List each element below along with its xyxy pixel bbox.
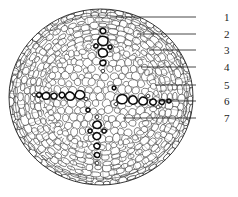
label-number-3: 3 xyxy=(224,45,230,56)
label-number-5: 5 xyxy=(224,80,230,91)
label-number-1: 1 xyxy=(224,12,230,23)
cross-section-drawing xyxy=(0,0,238,197)
label-number-6: 6 xyxy=(224,96,230,107)
figure-canvas: 1234567 xyxy=(0,0,238,197)
label-number-4: 4 xyxy=(224,62,230,73)
label-number-7: 7 xyxy=(224,113,230,124)
label-number-2: 2 xyxy=(224,29,230,40)
